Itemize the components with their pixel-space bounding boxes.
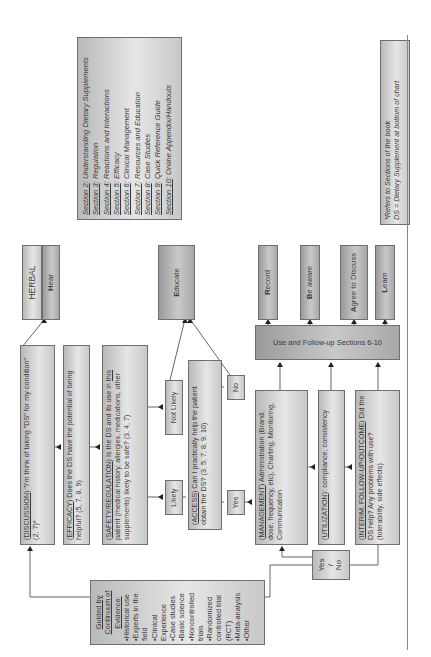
section-item: Section 2: Understanding Dietary Supplem… bbox=[81, 42, 91, 215]
evidence-item: •Other bbox=[242, 584, 251, 641]
likely-decision: Likely bbox=[165, 480, 183, 515]
discussion-step-box: (DISCUSSION) "I'm think of taking "DS" f… bbox=[20, 345, 55, 545]
section-item: Section 5: Efficacy bbox=[112, 42, 122, 215]
herbal-flowchart-diagram: Section 2: Understanding Dietary Supplem… bbox=[0, 0, 431, 657]
arrow-icon bbox=[56, 444, 61, 450]
yes-decision: Yes bbox=[227, 490, 245, 515]
be-aware-box: Be aware bbox=[300, 245, 320, 320]
herbal-title: HERBAL bbox=[27, 266, 37, 300]
section-item: Section 4: Reactions and Interactions bbox=[102, 42, 112, 215]
arrow-icon bbox=[158, 404, 163, 410]
arrow-icon bbox=[310, 464, 315, 470]
learn-box: Learn bbox=[375, 245, 395, 320]
hear-box: Hear bbox=[42, 245, 60, 320]
efficacy-step-box: (EFFICACY) Does the DS have the potentia… bbox=[63, 345, 90, 545]
footnote-box: *Refers to Sections of the book DS = Die… bbox=[380, 40, 410, 225]
arrow-icon bbox=[95, 444, 100, 450]
arrow-icon bbox=[277, 362, 283, 367]
arrow-icon bbox=[27, 546, 33, 551]
use-followup-bar: Use and Follow-up Sections 6-10 bbox=[255, 325, 400, 360]
access-step-box: (ACCESS) Can I practically help the pati… bbox=[188, 360, 222, 530]
section-item: Section 7: Resources and Education bbox=[133, 42, 143, 215]
evidence-item: •Basic science bbox=[177, 584, 186, 641]
evidence-item: •Historical use bbox=[122, 584, 131, 641]
arrow-icon bbox=[279, 546, 285, 551]
footnote-line-1: *Refers to Sections of the book bbox=[383, 45, 392, 220]
section-item: Section 6: Clinical Management bbox=[122, 42, 132, 215]
sections-legend-box: Section 2: Understanding Dietary Supplem… bbox=[77, 37, 182, 220]
footnote-line-2: DS = Dietary Supplement at bottom of cha… bbox=[392, 45, 401, 220]
evidence-item: •Noncontrolled trials bbox=[187, 584, 206, 641]
arrow-icon bbox=[375, 362, 381, 367]
interim-step-box: (INTERIM, FOLLOW-UP/OUTCOME) Did the DS … bbox=[355, 390, 400, 545]
no-decision: No bbox=[227, 375, 245, 400]
herbal-title-box: HERBAL bbox=[22, 245, 42, 320]
evidence-item: •Experts in the field bbox=[131, 584, 150, 641]
section-item: Section 3: Regulation bbox=[91, 42, 101, 215]
evidence-item: •Randomized controlled trial (RCT) bbox=[205, 584, 233, 641]
arrow-icon bbox=[247, 499, 252, 505]
safety-step-box: (SAFETY/REGULATION) Is the DS and its us… bbox=[102, 345, 148, 545]
management-step-box: (MANAGEMENT) Administration (Brand, dose… bbox=[255, 390, 308, 545]
record-box: Record bbox=[258, 245, 278, 320]
agree-to-discuss-box: Agree to Discuss bbox=[340, 245, 368, 320]
page-rule-divider bbox=[407, 35, 408, 650]
educate-box: Educate bbox=[158, 245, 195, 320]
section-item: Section 9: Quick Reference Guide bbox=[153, 42, 163, 215]
evidence-item: •Meta-analysis bbox=[233, 584, 242, 641]
not-likely-decision: Not Likely bbox=[165, 380, 183, 435]
arrow-icon bbox=[158, 494, 163, 500]
yes-no-loop-box: Yes / No bbox=[312, 550, 350, 580]
evidence-item: •Clinical Experience bbox=[150, 584, 169, 641]
use-followup-label: Use and Follow-up Sections 6-10 bbox=[273, 338, 382, 347]
arrow-icon bbox=[347, 464, 352, 470]
evidence-continuum-box: Guided by Continuum of Evidence: •Histor… bbox=[90, 580, 265, 645]
section-item: Section 8: Case Studies bbox=[143, 42, 153, 215]
section-item: Section 10: Online Appendix/Handouts bbox=[164, 42, 174, 215]
utilization-step-box: (UTILIZATION): compliance, consistency bbox=[318, 390, 345, 545]
evidence-item: •Case studies bbox=[168, 584, 177, 641]
arrow-icon bbox=[328, 362, 334, 367]
